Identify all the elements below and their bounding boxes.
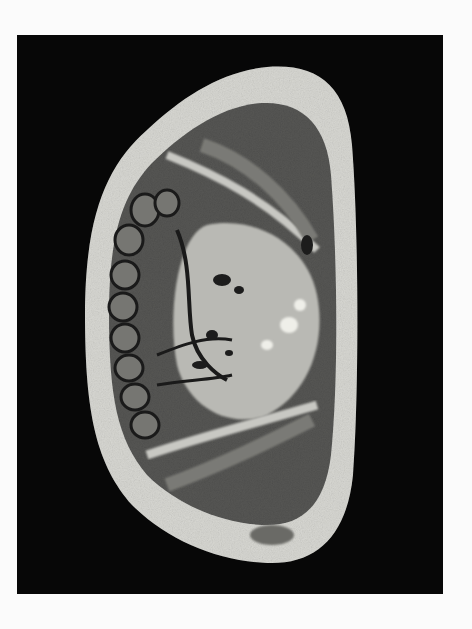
tissue-cross-section-specimen (17, 35, 443, 594)
bottom-dark-patch (250, 525, 294, 545)
black-background-plate (17, 35, 443, 594)
